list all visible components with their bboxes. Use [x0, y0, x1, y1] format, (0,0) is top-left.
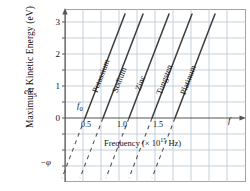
- y-tick-label-0: 0: [42, 113, 60, 123]
- x-axis-label-tail: Hz): [166, 138, 181, 148]
- x-axis-variable-label: f: [228, 115, 231, 125]
- x-axis-label-main: Frequency (× 10: [104, 138, 160, 148]
- threshold-frequency-annotation: f0: [77, 100, 83, 112]
- y-tick-label-1: 1: [42, 81, 60, 91]
- y-tick-label-2: 2: [42, 49, 60, 59]
- y-axis: [62, 8, 67, 182]
- evs-text: eV: [24, 86, 34, 96]
- x-tick-label-1-0: 1.0: [110, 120, 134, 129]
- x-axis-label: Frequency (× 1015 Hz): [104, 137, 181, 148]
- plot-canvas: [0, 0, 250, 191]
- f0-subscript: 0: [80, 105, 83, 112]
- gridlines-vertical: [83, 9, 227, 182]
- evs-axis-annotation: eVS: [24, 86, 37, 98]
- x-tick-label-1-5: 1.5: [146, 120, 170, 129]
- y-axis-label: Maximum Kinetic Energy (eV): [25, 0, 35, 152]
- evs-subscript: S: [34, 91, 38, 98]
- work-function-annotation: −φ: [40, 157, 51, 167]
- photoelectric-effect-chart: Maximum Kinetic Energy (eV) 3 2 1 0 eVS …: [0, 0, 250, 191]
- x-tick-label-0-5: 0.5: [74, 120, 98, 129]
- y-tick-label-3: 3: [42, 17, 60, 27]
